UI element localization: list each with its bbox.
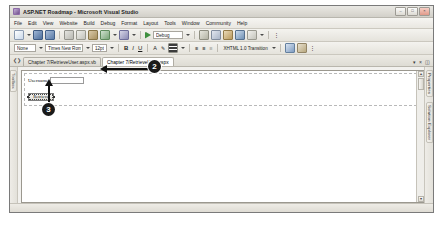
menu-item-build[interactable]: Build	[83, 20, 94, 26]
doctype-value[interactable]: XHTML 1.0 Transition	[222, 46, 268, 51]
formatting-toolbar: None Times New Roman 12pt B I U A ✎ ≡ ≡ …	[10, 42, 433, 55]
menu-bar: File Edit View Website Build Debug Forma…	[10, 18, 433, 29]
retrieve-button[interactable]: Retrieve	[28, 93, 54, 101]
designer-vertical-scrollbar[interactable]: ▴ ▾	[416, 71, 424, 202]
font-size-arrow-icon[interactable]	[110, 47, 114, 49]
save-icon[interactable]	[33, 30, 43, 40]
scroll-down-button[interactable]: ▾	[418, 196, 424, 202]
solution-explorer-icon[interactable]	[199, 30, 209, 40]
scrollbar-thumb[interactable]	[418, 78, 424, 90]
username-row: Username	[28, 76, 418, 84]
callout-3-arrow-head	[45, 79, 53, 86]
object-browser-icon[interactable]	[235, 30, 245, 40]
menu-item-window[interactable]: Window	[182, 20, 200, 26]
menu-item-help[interactable]: Help	[237, 20, 247, 26]
toolbar-separator	[140, 31, 141, 39]
undo-dropdown-icon[interactable]	[113, 34, 117, 36]
cut-icon[interactable]	[64, 30, 74, 40]
doctype-arrow-icon[interactable]	[272, 47, 276, 49]
block-format-value: None	[17, 46, 28, 51]
font-family-arrow-icon[interactable]	[86, 47, 90, 49]
selection-handle-left[interactable]	[27, 96, 29, 98]
solution-configuration-dropdown[interactable]: Debug	[153, 31, 183, 39]
menu-item-format[interactable]: Format	[121, 20, 137, 26]
document-tab-retrieveuser-aspx-vb[interactable]: Chapter 7/RetrieveUser.aspx.vb	[23, 57, 101, 66]
minimize-button[interactable]: –	[395, 7, 406, 16]
maximize-button[interactable]: □	[407, 7, 418, 16]
web-form-designer[interactable]: Username Retrieve ▴ ▾	[21, 70, 424, 203]
close-button[interactable]: ×	[419, 7, 430, 16]
tab-list-icon[interactable]: ❮❯	[13, 56, 23, 66]
underline-button[interactable]: U	[137, 44, 143, 52]
indent-icon[interactable]: ≡	[208, 44, 213, 52]
css-properties-icon[interactable]	[297, 43, 307, 53]
redo-icon[interactable]	[119, 30, 129, 40]
copy-icon[interactable]	[76, 30, 86, 40]
new-item-dropdown-icon[interactable]	[27, 34, 31, 36]
style-application-icon[interactable]	[285, 43, 295, 53]
toolbar-separator	[118, 44, 119, 52]
menu-item-layout[interactable]: Layout	[143, 20, 158, 26]
tab-strip-controls: ▾ × ◫	[413, 59, 433, 66]
callout-2-arrow-head	[100, 65, 107, 73]
find-icon[interactable]	[247, 30, 257, 40]
paste-icon[interactable]	[88, 30, 98, 40]
menu-item-website[interactable]: Website	[59, 20, 77, 26]
callout-3-arrow-shaft	[48, 86, 50, 104]
save-all-icon[interactable]	[45, 30, 55, 40]
rail-tab-toolbox[interactable]: Toolbox	[10, 70, 17, 92]
start-debug-icon[interactable]	[145, 32, 151, 39]
visual-studio-window: ASP.NET Roadmap - Microsoft Visual Studi…	[9, 5, 434, 213]
toolbar-separator	[194, 31, 195, 39]
redo-dropdown-icon[interactable]	[132, 34, 136, 36]
menu-item-view[interactable]: View	[43, 20, 54, 26]
toolbar-overflow-icon[interactable]: ⋮	[273, 31, 280, 39]
find-dropdown-icon[interactable]	[260, 34, 264, 36]
solution-configuration-value: Debug	[156, 33, 170, 38]
unordered-list-icon[interactable]: ≡	[201, 44, 206, 52]
background-color-icon[interactable]: ✎	[160, 44, 166, 52]
block-format-arrow-icon[interactable]	[39, 47, 43, 49]
username-textbox[interactable]	[50, 77, 84, 84]
ordered-list-icon[interactable]: ≡	[194, 44, 199, 52]
retrieve-button-label: Retrieve	[33, 94, 49, 99]
window-controls: – □ ×	[395, 7, 431, 16]
foreground-color-icon[interactable]: A	[152, 44, 158, 52]
tab-dropdown-icon[interactable]: ▾	[413, 59, 416, 65]
new-item-icon[interactable]	[14, 30, 24, 40]
bold-button[interactable]: B	[123, 44, 129, 52]
rail-tab-solution-explorer[interactable]: Solution Explorer	[426, 102, 433, 143]
aspnet-form-region: Username Retrieve	[24, 73, 422, 106]
align-dropdown-icon[interactable]	[181, 47, 185, 49]
document-tab-label: Chapter 7/RetrieveUser.aspx.vb	[28, 60, 96, 65]
block-format-dropdown[interactable]: None	[14, 44, 36, 52]
solution-configuration-arrow-icon[interactable]	[186, 34, 190, 36]
font-family-value: Times New Roman	[48, 46, 81, 51]
toolbar-separator	[189, 44, 190, 52]
menu-item-tools[interactable]: Tools	[164, 20, 176, 26]
menu-item-edit[interactable]: Edit	[28, 20, 37, 26]
menu-item-file[interactable]: File	[14, 20, 22, 26]
menu-item-community[interactable]: Community	[206, 20, 231, 26]
tab-close-icon[interactable]: ×	[419, 59, 422, 65]
toolbar-separator	[280, 44, 281, 52]
italic-button[interactable]: I	[131, 44, 135, 52]
toolbar-separator	[147, 44, 148, 52]
visual-studio-logo-icon	[13, 8, 20, 15]
undo-icon[interactable]	[100, 30, 110, 40]
window-title: ASP.NET Roadmap - Microsoft Visual Studi…	[23, 9, 138, 15]
scroll-up-button[interactable]: ▴	[418, 71, 424, 77]
split-window-icon[interactable]: ◫	[425, 60, 430, 65]
font-size-dropdown[interactable]: 12pt	[92, 44, 107, 52]
selection-handle-right[interactable]	[53, 96, 55, 98]
font-family-dropdown[interactable]: Times New Roman	[45, 44, 83, 52]
toolbox-icon[interactable]	[223, 30, 233, 40]
document-tab-retrieveuser-aspx[interactable]: Chapter 7/RetrieveUser.aspx	[102, 57, 174, 66]
toolbar-overflow-icon[interactable]: ⋮	[309, 44, 316, 52]
title-bar: ASP.NET Roadmap - Microsoft Visual Studi…	[10, 6, 433, 18]
properties-window-icon[interactable]	[211, 30, 221, 40]
rail-tab-properties[interactable]: Properties	[426, 70, 433, 97]
menu-item-debug[interactable]: Debug	[101, 20, 116, 26]
align-icon[interactable]	[168, 43, 178, 53]
toolbar-separator	[268, 31, 269, 39]
